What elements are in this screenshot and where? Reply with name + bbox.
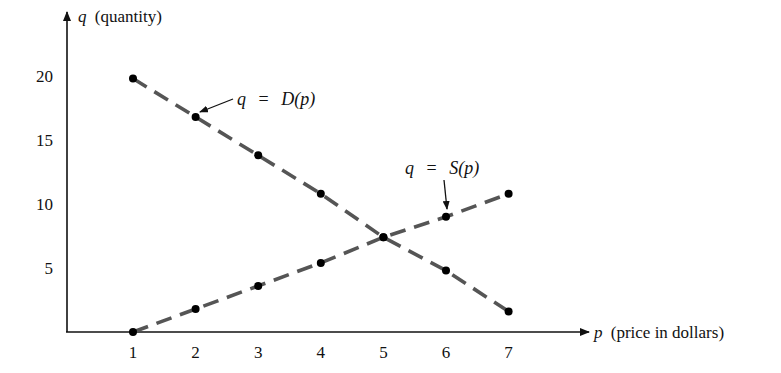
y-tick-labels: 5101520: [36, 67, 53, 278]
supply-series: [129, 190, 513, 336]
x-tick-label: 6: [442, 343, 451, 362]
data-point-marker: [129, 75, 137, 83]
data-point-marker: [254, 151, 262, 159]
x-tick-labels: 1234567: [129, 343, 514, 362]
chart: q (quantity) p (price in dollars) 123456…: [0, 0, 781, 373]
data-point-marker: [254, 282, 262, 290]
data-point-marker: [192, 113, 200, 121]
data-point-marker: [442, 267, 450, 275]
series-layer: [129, 75, 513, 336]
y-tick-label: 15: [36, 131, 53, 150]
data-point-marker: [505, 190, 513, 198]
x-axis-title: p (price in dollars): [593, 323, 724, 342]
x-tick-label: 1: [129, 343, 138, 362]
x-tick-label: 4: [317, 343, 326, 362]
supply-annotation: q = S(p): [405, 158, 479, 209]
supply-arrow: [444, 180, 447, 209]
x-tick-label: 5: [379, 343, 388, 362]
x-tick-label: 2: [191, 343, 200, 362]
y-tick-label: 10: [36, 195, 53, 214]
y-axis-title: q (quantity): [78, 7, 162, 26]
data-point-marker: [317, 190, 325, 198]
data-point-marker: [379, 233, 387, 241]
demand-arrow: [200, 99, 233, 112]
axes: [66, 12, 589, 332]
demand-label: q = D(p): [237, 89, 315, 110]
supply-label: q = S(p): [405, 158, 479, 179]
demand-annotation: q = D(p): [200, 89, 315, 112]
demand-series: [129, 75, 513, 316]
x-tick-label: 7: [504, 343, 513, 362]
data-point-marker: [505, 308, 513, 316]
y-tick-label: 5: [45, 259, 54, 278]
data-point-marker: [129, 328, 137, 336]
data-point-marker: [317, 259, 325, 267]
y-tick-label: 20: [36, 67, 53, 86]
x-tick-label: 3: [254, 343, 263, 362]
data-point-marker: [192, 305, 200, 313]
data-point-marker: [442, 213, 450, 221]
